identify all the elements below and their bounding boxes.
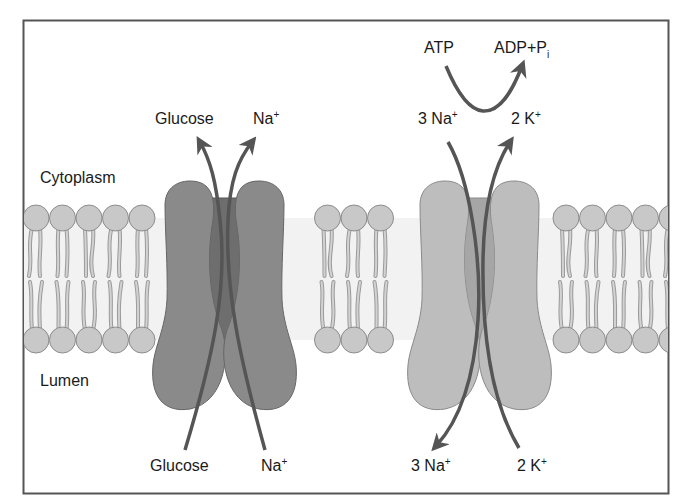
glucose-label-cytoplasm: Glucose (155, 110, 214, 127)
lumen-label: Lumen (40, 372, 89, 389)
glucose-label-lumen: Glucose (150, 457, 209, 474)
atp-label: ATP (424, 39, 454, 56)
transport-diagram: Cytoplasm Lumen Glucose Na+ Glucose Na+ … (0, 0, 695, 504)
cytoplasm-label: Cytoplasm (40, 169, 116, 186)
